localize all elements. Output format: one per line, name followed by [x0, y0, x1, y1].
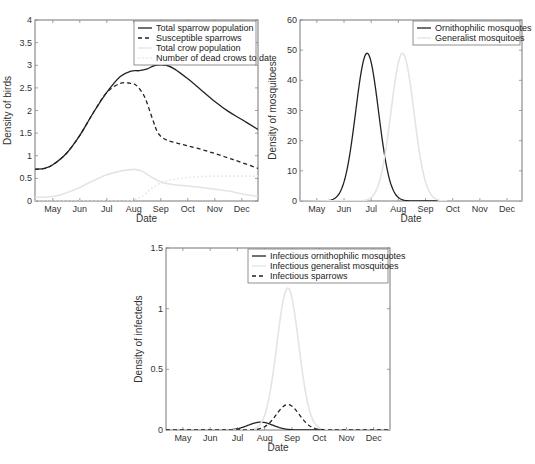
y-tick-label: 2.5 [19, 83, 32, 93]
y-tick-label: 10 [287, 166, 297, 176]
legend-label: Total crow population [156, 43, 241, 53]
y-tick-label: 2 [27, 106, 32, 116]
y-tick-label: 30 [287, 106, 297, 116]
x-tick-label: Nov [472, 204, 489, 214]
x-tick-label: May [308, 204, 326, 214]
x-tick-label: May [174, 433, 192, 443]
legend-label: Generalist mosquitoes [435, 33, 525, 43]
x-tick-label: May [44, 204, 62, 214]
legend-label: Ornithophilic mosquotes [435, 23, 532, 33]
y-tick-label: 1.5 [150, 243, 163, 253]
legend-label: Susceptible sparrows [156, 33, 242, 43]
x-tick-label: Jul [232, 433, 244, 443]
chart-birds: MayJunJulAugSepOctNovDec00.511.522.533.5… [2, 15, 277, 224]
y-tick-label: 0 [27, 196, 32, 206]
x-tick-label: Dec [366, 433, 383, 443]
y-tick-label: 3.5 [19, 38, 32, 48]
y-tick-label: 60 [287, 15, 297, 25]
y-tick-label: 4 [27, 15, 32, 25]
x-axis-label: Date [400, 213, 422, 224]
x-tick-label: Oct [312, 433, 327, 443]
chart-infecteds: MayJunJulAugSepOctNovDec00.511.5DateDens… [133, 243, 406, 453]
x-tick-label: Dec [499, 204, 516, 214]
x-tick-label: Jun [73, 204, 88, 214]
legend: Total sparrow populationSusceptible spar… [134, 21, 277, 65]
x-axis-label: Date [267, 442, 289, 453]
y-tick-label: 0.5 [19, 173, 32, 183]
legend-label: Infectious generalist mosquitoes [270, 261, 399, 271]
x-tick-label: Oct [181, 204, 196, 214]
y-tick-label: 1 [27, 151, 32, 161]
y-tick-label: 20 [287, 136, 297, 146]
y-tick-label: 0.5 [150, 364, 163, 374]
x-tick-label: Jul [101, 204, 113, 214]
x-axis-label: Date [136, 213, 158, 224]
y-axis-label: Density of mosquitoes [267, 61, 278, 159]
x-tick-label: Jun [203, 433, 218, 443]
y-tick-label: 40 [287, 75, 297, 85]
legend: Ornithophilic mosquotesGeneralist mosqui… [413, 21, 532, 45]
y-tick-label: 0 [158, 425, 163, 435]
x-tick-label: Jun [337, 204, 352, 214]
y-tick-label: 50 [287, 45, 297, 55]
x-tick-label: Jul [365, 204, 377, 214]
y-axis-label: Density of birds [2, 76, 13, 145]
x-tick-label: Dec [234, 204, 251, 214]
legend-label: Infectious sparrows [270, 271, 348, 281]
y-axis-label: Density of infecteds [133, 295, 144, 382]
x-tick-label: Nov [338, 433, 355, 443]
y-tick-label: 3 [27, 60, 32, 70]
legend-label: Number of dead crows to date [156, 53, 277, 63]
plot-frame [300, 20, 522, 201]
x-tick-label: Oct [446, 204, 461, 214]
y-tick-label: 0 [292, 196, 297, 206]
legend-label: Infectious ornithophilic mosquotes [270, 251, 406, 261]
chart-mosquitoes: MayJunJulAugSepOctNovDec0102030405060Dat… [267, 15, 532, 224]
legend-label: Total sparrow population [156, 23, 254, 33]
figure-canvas: MayJunJulAugSepOctNovDec00.511.522.533.5… [0, 0, 535, 464]
legend: Infectious ornithophilic mosquotesInfect… [248, 249, 406, 283]
x-tick-label: Nov [207, 204, 224, 214]
y-tick-label: 1.5 [19, 128, 32, 138]
y-tick-label: 1 [158, 304, 163, 314]
